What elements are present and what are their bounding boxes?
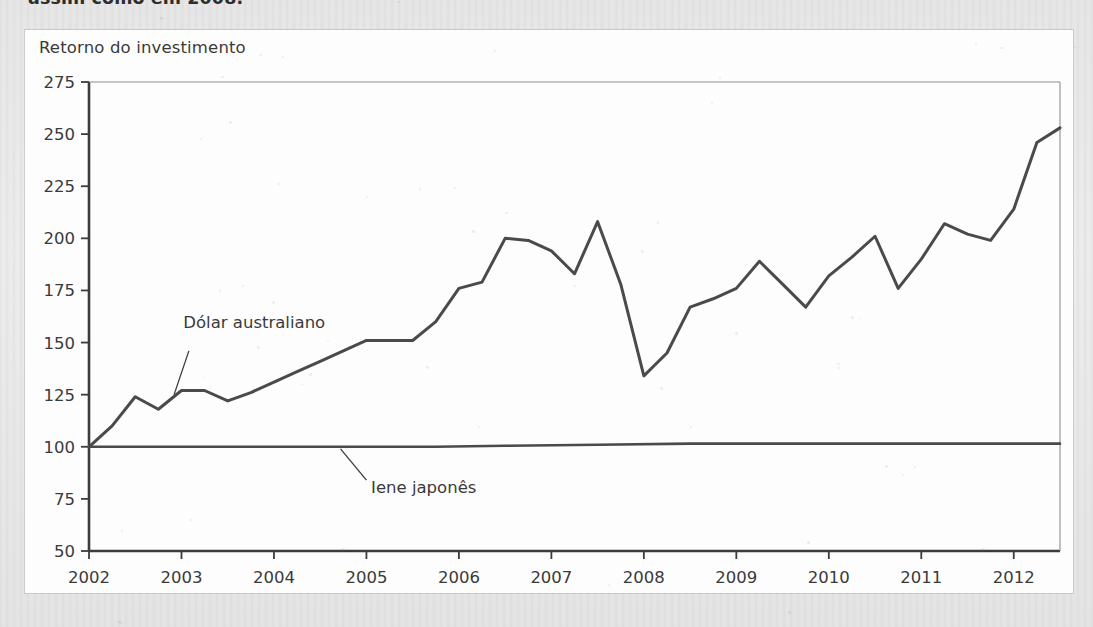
figure-panel: Retorno do investimento 5075100125150175…: [25, 30, 1073, 593]
x-tick-label: 2006: [438, 568, 480, 587]
y-tick-label: 100: [44, 438, 76, 457]
paper-speck: [788, 611, 791, 614]
cut-off-body-heading: assim como em 2008.: [28, 0, 243, 4]
line-chart: 5075100125150175200225250275200220032004…: [25, 30, 1073, 593]
paper-speck: [1074, 47, 1076, 49]
y-tick-label: 75: [54, 490, 75, 509]
x-tick-label: 2010: [808, 568, 850, 587]
page-background: assim como em 2008. Retorno do investime…: [0, 0, 1093, 627]
x-tick-label: 2004: [253, 568, 295, 587]
paper-speck: [118, 621, 120, 623]
chart-series: [89, 128, 1060, 447]
paper-speck: [119, 621, 122, 624]
x-tick-label: 2012: [993, 568, 1035, 587]
x-tick-label: 2009: [715, 568, 757, 587]
x-tick-label: 2008: [623, 568, 665, 587]
y-tick-label: 175: [44, 281, 76, 300]
annotation-leader-line: [341, 449, 367, 480]
x-tick-label: 2002: [68, 568, 110, 587]
y-tick-label: 250: [44, 125, 76, 144]
series-line-1: [89, 128, 1060, 447]
paper-speck: [160, 17, 163, 20]
paper-speck: [398, 1, 401, 4]
y-tick-label: 200: [44, 229, 76, 248]
annotation-label: Dólar australiano: [183, 313, 325, 332]
annotation-label: Iene japonês: [371, 478, 476, 497]
y-tick-label: 125: [44, 386, 76, 405]
y-tick-label: 150: [44, 334, 76, 353]
series-line-2: [89, 444, 1060, 447]
x-tick-label: 2003: [160, 568, 202, 587]
x-tick-label: 2007: [530, 568, 572, 587]
annotation-leader-line: [174, 351, 189, 395]
y-tick-label: 225: [44, 177, 76, 196]
chart-annotations: Dólar australianoIene japonês: [174, 313, 476, 497]
x-tick-label: 2011: [900, 568, 942, 587]
x-tick-label: 2005: [345, 568, 387, 587]
y-tick-label: 275: [44, 73, 76, 92]
y-tick-label: 50: [54, 542, 75, 561]
